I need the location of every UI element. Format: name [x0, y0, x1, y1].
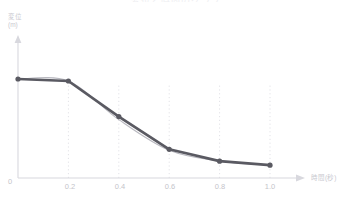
data-point-0.8 [217, 159, 222, 164]
plot-area [0, 0, 352, 205]
axes-group [15, 35, 305, 182]
data-point-0 [15, 76, 20, 81]
data-point-1.0 [267, 163, 272, 168]
displacement-time-chart: 変位と時間のグラフ 変位 (m) 時間(秒) 0 0.2 0.4 0.6 0.8… [0, 0, 352, 205]
data-point-0.6 [167, 147, 172, 152]
y-axis-arrow-icon [15, 35, 22, 43]
smooth-approximation-curve [18, 77, 270, 165]
data-point-0.2 [66, 78, 71, 83]
data-point-markers-group [15, 76, 272, 167]
x-axis-arrow-icon [296, 174, 305, 181]
measured-data-line [18, 79, 270, 165]
data-point-0.4 [116, 114, 121, 119]
